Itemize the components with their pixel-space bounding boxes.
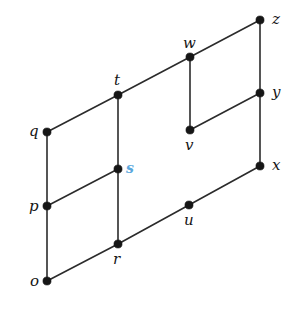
- node-dot-q[interactable]: [43, 128, 51, 136]
- node-dot-y[interactable]: [256, 89, 264, 97]
- node-label-v: v: [185, 138, 193, 153]
- node-dot-u[interactable]: [185, 201, 193, 209]
- edge-p-s: [47, 169, 118, 206]
- node-dot-w[interactable]: [186, 53, 194, 61]
- node-dot-p[interactable]: [43, 202, 51, 210]
- diagram-canvas: opqrstuvwxyz: [0, 0, 302, 313]
- node-label-o: o: [30, 274, 39, 289]
- edge-t-w: [118, 57, 190, 95]
- node-dot-r[interactable]: [114, 240, 122, 248]
- node-dot-v[interactable]: [186, 126, 194, 134]
- graph-svg: [0, 0, 302, 313]
- node-label-w: w: [183, 36, 196, 51]
- node-label-u: u: [184, 213, 194, 228]
- node-dot-x[interactable]: [256, 162, 264, 170]
- edge-q-t: [47, 95, 118, 132]
- edge-v-y: [190, 93, 260, 130]
- node-label-z: z: [272, 12, 280, 27]
- node-dot-z[interactable]: [256, 16, 264, 24]
- node-label-p: p: [29, 199, 39, 214]
- node-dot-t[interactable]: [114, 91, 122, 99]
- node-dot-o[interactable]: [43, 277, 51, 285]
- edges-group: [47, 20, 260, 281]
- edge-o-r: [47, 244, 118, 281]
- node-label-t: t: [114, 73, 120, 88]
- node-label-r: r: [113, 252, 120, 267]
- edge-w-z: [190, 20, 260, 57]
- node-label-x: x: [272, 158, 280, 173]
- node-dot-s[interactable]: [114, 165, 122, 173]
- node-label-y: y: [272, 85, 280, 100]
- node-label-s: s: [126, 161, 134, 175]
- edge-u-x: [189, 166, 260, 205]
- edge-r-u: [118, 205, 189, 244]
- node-label-q: q: [29, 124, 39, 139]
- nodes-group: [43, 16, 264, 285]
